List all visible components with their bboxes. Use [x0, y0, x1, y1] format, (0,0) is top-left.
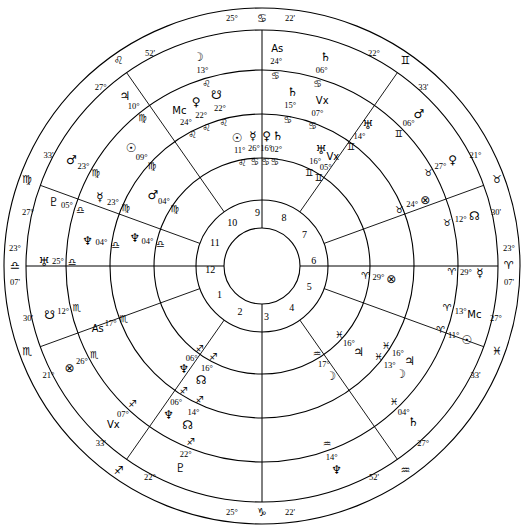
planet-degree: 14° — [188, 407, 200, 417]
planet-glyph: Mc — [467, 309, 481, 320]
planet-degree: 05° — [61, 200, 73, 210]
planet-glyph: ♆ — [331, 463, 342, 477]
planet-sign-glyph: ♋ — [271, 70, 280, 81]
planet-sign-glyph: ♎ — [76, 204, 85, 215]
svg-text:30': 30' — [491, 207, 502, 217]
planet-sign-glyph: ♈ — [443, 302, 452, 313]
svg-text:33': 33' — [470, 370, 481, 380]
svg-text:♌: ♌ — [114, 54, 124, 67]
house-number: 2 — [238, 306, 243, 317]
planet-sign-glyph: ♍ — [121, 202, 130, 213]
svg-text:25°: 25° — [226, 13, 238, 23]
house-number: 9 — [255, 207, 260, 218]
planet-glyph: ☿ — [96, 190, 103, 204]
planet-marker: ♂23°♍ — [66, 153, 100, 179]
planet-degree: 06° — [403, 118, 415, 128]
planet-glyph: ♆ — [82, 234, 93, 248]
planet-sign-glyph: ♐ — [128, 398, 137, 409]
house-number: 12 — [205, 264, 215, 275]
house-cusp-lines — [26, 30, 498, 502]
planet-degree: 14° — [326, 452, 338, 462]
planet-degree: 12° — [57, 306, 69, 316]
ring-center — [224, 228, 300, 304]
cusp-label: 23°♎07' — [9, 243, 21, 287]
planet-degree: 29° — [460, 267, 472, 277]
svg-text:♏: ♏ — [22, 345, 32, 358]
planet-degree: 17° — [105, 318, 117, 328]
planet-degree: 22° — [214, 103, 226, 113]
planet-glyph: ☽ — [326, 369, 337, 383]
planet-sign-glyph: ♊ — [314, 172, 323, 183]
cusp-label: 27°♌52' — [95, 48, 156, 93]
planet-degree: 06° — [316, 65, 328, 75]
planet-glyph: Mc — [172, 105, 186, 116]
planet-glyph: ☿ — [249, 129, 256, 143]
planet-glyph: ♀ — [448, 153, 457, 167]
planet-marker: ♄15°♋ — [283, 85, 298, 125]
planet-sign-glyph: ♓ — [390, 396, 399, 407]
cusp-label: 22°♐33' — [96, 438, 156, 483]
planet-degree: 24° — [180, 117, 192, 127]
house-cusp-line — [40, 185, 200, 243]
planet-sign-glyph: ♐ — [187, 436, 196, 447]
planet-glyph: ☿ — [476, 266, 483, 280]
cusp-label: 27°♓33' — [470, 313, 502, 380]
svg-text:♎: ♎ — [10, 259, 20, 272]
planet-glyph: ♄ — [320, 50, 331, 64]
planet-marker: ♆14°♒ — [323, 438, 342, 477]
svg-text:23°: 23° — [9, 243, 21, 253]
planet-glyph: ☽ — [395, 367, 406, 381]
planet-glyph: ♆ — [163, 408, 174, 422]
svg-text:♉: ♉ — [492, 173, 502, 186]
planet-degree: 02° — [270, 144, 282, 154]
svg-text:52': 52' — [369, 472, 380, 482]
planet-marker: ♄02°♋ — [270, 129, 283, 167]
planet-marker: ☉09°♍ — [126, 141, 156, 172]
planet-sign-glyph: ♍ — [171, 203, 180, 214]
cusp-label: 21°♏30' — [22, 313, 54, 380]
planet-sign-glyph: ♌ — [219, 117, 228, 128]
planet-sign-glyph: ♋ — [261, 156, 270, 167]
planet-sign-glyph: ♎ — [68, 256, 77, 267]
planet-degree: 10° — [128, 101, 140, 111]
house-cusp-line — [127, 73, 225, 212]
planet-glyph: ♅ — [316, 143, 327, 157]
planet-sign-glyph: ♓ — [335, 329, 344, 340]
svg-text:33': 33' — [44, 150, 55, 160]
planet-sign-glyph: ♓ — [382, 340, 391, 351]
planet-marker: ♀22°♌ — [192, 95, 211, 133]
planet-sign-glyph: ♒ — [323, 438, 332, 449]
planet-degree: 16° — [392, 348, 404, 358]
svg-text:07': 07' — [10, 277, 21, 287]
planet-glyph: ☊ — [196, 373, 207, 387]
svg-text:♐: ♐ — [114, 464, 124, 477]
svg-text:22°: 22° — [144, 472, 156, 482]
svg-text:♋: ♋ — [257, 12, 267, 25]
cusp-label: 25°♑22' — [226, 506, 295, 519]
house-number: 10 — [227, 217, 237, 228]
planet-glyph: ♄ — [272, 129, 283, 143]
planet-glyph: ☊ — [182, 418, 193, 432]
planet-marker: ♇05°♎ — [48, 195, 84, 215]
planet-glyph: Vx — [326, 151, 339, 162]
planet-sign-glyph: ♊ — [394, 128, 403, 139]
planet-glyph: ♄ — [287, 85, 298, 99]
planet-marker: ⊗26°♏ — [64, 349, 98, 375]
cusp-label: 23°♈07' — [503, 243, 515, 287]
planet-sign-glyph: ♋ — [270, 156, 279, 167]
planet-degree: 27° — [434, 161, 446, 171]
planet-glyph: ♀ — [192, 95, 201, 109]
svg-text:22': 22' — [285, 13, 296, 23]
planet-degree: 17° — [318, 359, 330, 369]
planet-marker: ⊗29°♈ — [361, 270, 396, 286]
planet-degree: 22° — [180, 449, 192, 459]
planet-sign-glyph: ♐ — [179, 385, 188, 396]
planet-degree: 29° — [372, 272, 384, 282]
planet-sign-glyph: ♉ — [443, 217, 452, 228]
planet-sign-glyph: ♈ — [361, 270, 370, 281]
planet-glyph: ⊗ — [420, 193, 430, 207]
planet-glyph: ☊ — [469, 209, 480, 223]
planet-degree: 13° — [384, 360, 396, 370]
planet-sign-glyph: ♎ — [111, 239, 120, 250]
planet-glyph: ☋ — [211, 88, 222, 102]
